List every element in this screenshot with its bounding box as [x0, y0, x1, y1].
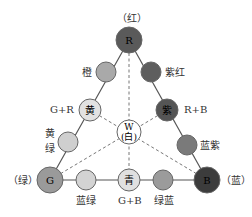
corner-label-red: （红）	[117, 12, 147, 24]
node-g: G	[37, 167, 63, 193]
node-yellow-label: G+R	[50, 104, 74, 115]
node-bluepurple: 蓝紫	[177, 135, 220, 155]
node-purple: 紫 R+B	[156, 99, 207, 121]
node-r: R	[116, 27, 142, 53]
node-bluepurple-circle	[177, 135, 197, 155]
node-purple-label: R+B	[184, 104, 207, 115]
node-yellowgreen: 黄 绿	[45, 127, 78, 154]
color-triangle-diagram: R 橙 紫红 黄 G+R 紫 R+B W (白) 黄 绿 蓝紫 G 蓝绿	[0, 0, 252, 217]
node-b: B	[194, 167, 220, 193]
node-bluegreen: 蓝绿	[76, 170, 96, 206]
node-orange-label: 橙	[82, 66, 92, 78]
node-yellowgreen-label2: 绿	[45, 142, 55, 154]
node-white: W (白)	[117, 120, 141, 144]
node-yellow: 黄 G+R	[50, 99, 101, 121]
corner-label-blue: （蓝）	[221, 175, 251, 186]
node-r-text: R	[125, 35, 133, 46]
node-white-text: W	[124, 122, 134, 132]
node-purple-text: 紫	[162, 105, 172, 116]
node-magenta-circle	[141, 62, 161, 82]
node-yellowgreen-label: 黄	[45, 127, 55, 139]
node-magenta: 紫红	[141, 62, 185, 82]
node-yellow-text: 黄	[85, 104, 95, 116]
node-g-text: G	[46, 175, 54, 186]
node-orange: 橙	[82, 62, 116, 82]
node-yellowgreen-circle	[58, 132, 78, 152]
node-cyan-text: 青	[124, 174, 134, 186]
node-magenta-label: 紫红	[165, 66, 185, 78]
node-white-text2: (白)	[121, 131, 137, 142]
node-bluepurple-label: 蓝紫	[200, 140, 220, 151]
node-greenblue-circle	[153, 170, 173, 190]
node-greenblue: 绿蓝	[153, 170, 174, 206]
node-greenblue-label: 绿蓝	[154, 194, 174, 206]
node-b-text: B	[203, 175, 210, 186]
corner-label-green: （绿）	[8, 174, 38, 186]
node-bluegreen-circle	[76, 170, 96, 190]
node-cyan: 青 G+B	[118, 169, 142, 206]
node-cyan-label: G+B	[118, 195, 142, 206]
node-orange-circle	[96, 62, 116, 82]
node-bluegreen-label: 蓝绿	[76, 194, 96, 206]
